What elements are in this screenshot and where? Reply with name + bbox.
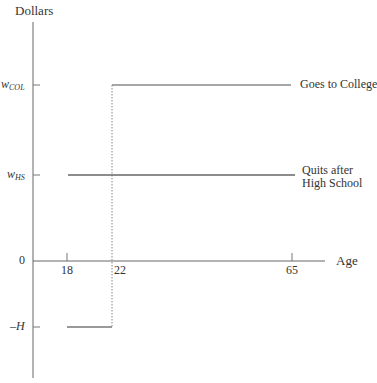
y-label-wcol-main: w [1, 77, 9, 91]
y-label-whs-main: w [7, 167, 15, 181]
y-label-negh: –H [10, 320, 25, 333]
y-label-zero: 0 [19, 254, 25, 267]
hs-series-label-line2: High School [302, 177, 362, 190]
x-label-18: 18 [61, 264, 73, 277]
x-label-65: 65 [286, 264, 298, 277]
y-label-wcol: wCOL [1, 78, 25, 94]
y-label-whs-sub: HS [15, 173, 25, 182]
y-axis-title: Dollars [15, 4, 53, 17]
y-label-wcol-sub: COL [9, 83, 25, 92]
college-series-label: Goes to College [300, 78, 377, 91]
x-label-22: 22 [114, 264, 126, 277]
x-axis-title: Age [336, 254, 358, 267]
y-label-whs: wHS [7, 168, 25, 184]
